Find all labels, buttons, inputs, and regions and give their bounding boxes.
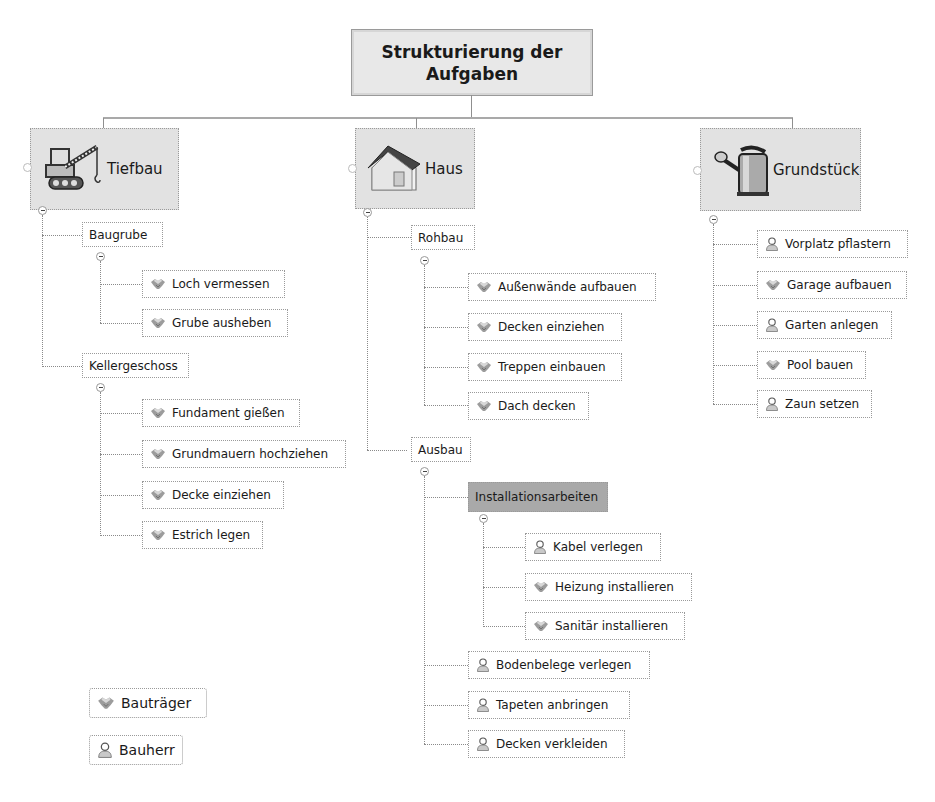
topic-tiefbau[interactable]: Tiefbau: [30, 128, 179, 210]
topic-label: Haus: [425, 160, 463, 178]
person-icon: [97, 742, 113, 758]
task-decken-verkleiden[interactable]: Decken verkleiden: [468, 730, 625, 758]
task-heizung-installieren[interactable]: Heizung installieren: [525, 573, 692, 601]
watering-can-icon: [713, 140, 771, 200]
root-title-line2: Aufgaben: [382, 63, 563, 85]
topic-ausbau[interactable]: Ausbau: [411, 437, 471, 462]
task-label: Bodenbelege verlegen: [496, 658, 631, 672]
person-icon: [765, 318, 779, 332]
task-sanitaer-installieren[interactable]: Sanitär installieren: [525, 612, 685, 640]
task-vorplatz-pflastern[interactable]: Vorplatz pflastern: [757, 230, 908, 258]
handshake-icon: [150, 489, 166, 501]
connector: [424, 476, 425, 744]
task-label: Pool bauen: [787, 358, 853, 372]
handshake-icon: [150, 317, 166, 329]
task-dach-decken[interactable]: Dach decken: [468, 392, 589, 420]
task-pool-bauen[interactable]: Pool bauen: [757, 351, 866, 379]
task-kabel-verlegen[interactable]: Kabel verlegen: [525, 533, 661, 561]
task-label: Grube ausheben: [172, 316, 271, 330]
task-grundmauern-hochziehen[interactable]: Grundmauern hochziehen: [142, 440, 346, 468]
connector: [424, 705, 468, 706]
task-label: Garage aufbauen: [787, 278, 892, 292]
connector: [100, 413, 142, 414]
root-topic[interactable]: Strukturierung der Aufgaben: [351, 29, 593, 96]
task-bodenbelege-verlegen[interactable]: Bodenbelege verlegen: [468, 651, 650, 679]
task-label: Vorplatz pflastern: [785, 237, 891, 251]
handshake-icon: [476, 281, 492, 293]
connection-handle[interactable]: [23, 163, 32, 172]
collapse-toggle[interactable]: [420, 467, 429, 476]
task-grube-ausheben[interactable]: Grube ausheben: [142, 309, 288, 337]
connector: [100, 454, 142, 455]
topic-label: Tiefbau: [107, 160, 163, 178]
task-label: Grundmauern hochziehen: [172, 447, 328, 461]
connector: [42, 235, 82, 236]
topic-label: Ausbau: [418, 443, 463, 457]
task-label: Decken verkleiden: [496, 737, 608, 751]
topic-installationsarbeiten[interactable]: Installationsarbeiten: [468, 482, 608, 512]
root-title-line1: Strukturierung der: [382, 41, 563, 63]
task-estrich-legen[interactable]: Estrich legen: [142, 521, 263, 549]
topic-haus[interactable]: Haus: [355, 128, 475, 209]
task-label: Estrich legen: [172, 528, 250, 542]
task-label: Fundament gießen: [172, 406, 285, 420]
connector: [367, 217, 368, 450]
connection-handle[interactable]: [693, 166, 702, 175]
connection-handle[interactable]: [348, 164, 357, 173]
handshake-icon: [765, 359, 781, 371]
task-loch-vermessen[interactable]: Loch vermessen: [142, 270, 285, 298]
collapse-toggle[interactable]: [363, 208, 372, 217]
handshake-icon: [476, 361, 492, 373]
connector: [713, 244, 757, 245]
connector: [424, 744, 468, 745]
task-fundament-giessen[interactable]: Fundament gießen: [142, 399, 300, 427]
connector: [483, 547, 525, 548]
collapse-toggle[interactable]: [96, 383, 105, 392]
person-icon: [476, 658, 490, 672]
legend-label: Bauherr: [119, 742, 175, 758]
connector: [424, 665, 468, 666]
handshake-icon: [150, 448, 166, 460]
person-icon: [476, 698, 490, 712]
connector: [713, 224, 714, 404]
connector: [100, 284, 142, 285]
task-garage-aufbauen[interactable]: Garage aufbauen: [757, 271, 907, 299]
topic-label: Grundstück: [773, 161, 859, 179]
connector: [42, 215, 43, 367]
task-label: Tapeten anbringen: [496, 698, 608, 712]
task-decken-einziehen[interactable]: Decken einziehen: [468, 313, 622, 341]
person-icon: [765, 237, 779, 251]
connector: [471, 95, 472, 118]
connector: [367, 450, 407, 451]
connector: [424, 327, 468, 328]
task-zaun-setzen[interactable]: Zaun setzen: [757, 390, 872, 418]
task-aussenwaende-aufbauen[interactable]: Außenwände aufbauen: [468, 273, 656, 301]
handshake-icon: [533, 581, 549, 593]
topic-rohbau[interactable]: Rohbau: [411, 225, 475, 250]
task-treppen-einbauen[interactable]: Treppen einbauen: [468, 353, 622, 381]
task-decke-einziehen[interactable]: Decke einziehen: [142, 481, 284, 509]
collapse-toggle[interactable]: [38, 206, 47, 215]
connector: [424, 497, 468, 498]
collapse-toggle[interactable]: [479, 514, 488, 523]
topic-baugrube[interactable]: Baugrube: [82, 222, 163, 247]
legend-label: Bauträger: [121, 695, 191, 711]
task-garten-anlegen[interactable]: Garten anlegen: [757, 311, 892, 339]
task-label: Loch vermessen: [172, 277, 270, 291]
collapse-toggle[interactable]: [709, 215, 718, 224]
topic-grundstueck[interactable]: Grundstück: [700, 128, 861, 211]
connector: [483, 523, 484, 627]
topic-kellergeschoss[interactable]: Kellergeschoss: [82, 353, 189, 378]
collapse-toggle[interactable]: [420, 256, 429, 265]
handshake-icon: [765, 279, 781, 291]
task-tapeten-anbringen[interactable]: Tapeten anbringen: [468, 691, 630, 719]
task-label: Zaun setzen: [785, 397, 859, 411]
connector: [424, 287, 468, 288]
connector: [100, 261, 101, 323]
collapse-toggle[interactable]: [96, 252, 105, 261]
connector: [100, 535, 142, 536]
connector: [416, 118, 417, 128]
connector: [42, 366, 82, 367]
connector: [100, 323, 142, 324]
connector: [100, 495, 142, 496]
